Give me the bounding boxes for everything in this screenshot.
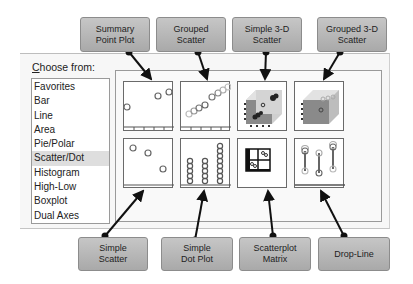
callout-scatterplot-matrix: ScatterplotMatrix [239, 237, 311, 271]
callout-line: Drop-Line [334, 249, 374, 260]
callout-line: Scatter [326, 35, 378, 46]
callout-simple-dot-plot: SimpleDot Plot [161, 237, 233, 271]
callout-line: Dot Plot [181, 254, 213, 265]
callout-line: Summary [96, 24, 135, 35]
callout-line: Scatter [173, 35, 208, 46]
callout-line: Grouped 3-D [326, 24, 378, 35]
callout-line: Scatter [245, 35, 290, 46]
callout-line: Scatter [99, 254, 128, 265]
callout-summary-point-plot: SummaryPoint Plot [80, 17, 150, 52]
callout-line: Scatterplot [253, 243, 296, 254]
callout-line: Matrix [253, 254, 296, 265]
callout-line: Point Plot [96, 35, 135, 46]
callout-grouped-scatter: GroupedScatter [156, 17, 226, 52]
callout-simple-3d-scatter: Simple 3-DScatter [232, 17, 302, 52]
callout-simple-scatter: SimpleScatter [78, 237, 148, 271]
callout-drop-line: Drop-Line [318, 237, 390, 271]
callout-line: Simple 3-D [245, 24, 290, 35]
callout-line: Simple [181, 243, 213, 254]
callout-line: Simple [99, 243, 128, 254]
callout-line: Grouped [173, 24, 208, 35]
callout-grouped-3d-scatter: Grouped 3-DScatter [317, 17, 387, 52]
